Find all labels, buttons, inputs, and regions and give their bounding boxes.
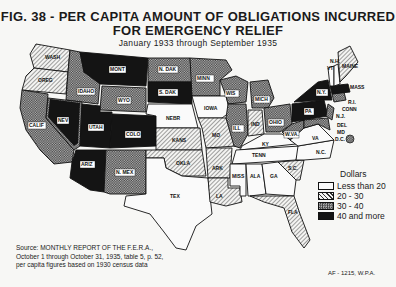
swatch-white-icon <box>318 182 334 190</box>
state-nj <box>326 104 334 120</box>
svg-text:NEV: NEV <box>58 117 69 123</box>
svg-text:MD: MD <box>337 129 345 135</box>
svg-text:VT: VT <box>327 65 333 71</box>
svg-text:MISS: MISS <box>232 173 245 179</box>
svg-text:IND: IND <box>251 121 260 127</box>
svg-text:R.I.: R.I. <box>348 99 356 105</box>
svg-text:TEX: TEX <box>170 193 180 199</box>
credit-code: AF - 1215, W.P.A. <box>328 270 375 276</box>
state-dc <box>346 135 354 143</box>
svg-text:COLO: COLO <box>126 131 141 137</box>
svg-text:GA: GA <box>270 173 278 179</box>
legend-item-less-than-20: Less than 20 <box>318 181 386 191</box>
svg-text:NEBR: NEBR <box>166 115 181 121</box>
swatch-black-icon <box>318 212 334 220</box>
svg-text:ALA: ALA <box>250 173 261 179</box>
source-note: Source: MONTHLY REPORT OF THE F.E.R.A., … <box>16 244 163 270</box>
svg-text:TENN: TENN <box>252 152 266 158</box>
state-ark <box>206 148 232 178</box>
svg-text:OREG: OREG <box>38 77 53 83</box>
svg-text:PA: PA <box>305 108 312 114</box>
svg-text:MASS: MASS <box>350 84 365 90</box>
svg-text:WIS: WIS <box>226 90 236 96</box>
svg-text:WASH: WASH <box>45 54 60 60</box>
svg-text:KY: KY <box>262 141 270 147</box>
state-ariz <box>70 150 106 192</box>
svg-text:LA: LA <box>216 193 223 199</box>
state-fla <box>250 196 310 248</box>
svg-text:N. DAK: N. DAK <box>159 66 177 72</box>
svg-text:S. DAK: S. DAK <box>159 89 176 95</box>
svg-text:W.VA.: W.VA. <box>285 131 299 137</box>
legend-item-20-30: 20 - 30 <box>318 191 386 201</box>
svg-text:S.C.: S.C. <box>288 165 298 171</box>
state-mich <box>250 80 274 108</box>
svg-text:IOWA: IOWA <box>204 105 218 111</box>
swatch-hatch-icon <box>318 192 334 200</box>
legend-item-30-40: 30 - 40 <box>318 201 386 211</box>
svg-text:N.J.: N.J. <box>336 113 346 119</box>
legend-title: Dollars <box>340 169 386 179</box>
svg-text:OKLA: OKLA <box>176 160 191 166</box>
svg-text:ARIZ: ARIZ <box>81 161 93 167</box>
svg-text:CONN: CONN <box>342 106 357 112</box>
svg-text:IDAHO: IDAHO <box>78 88 94 94</box>
legend-item-40-and-more: 40 and more <box>318 211 386 221</box>
legend: Dollars Less than 20 20 - 30 30 - 40 40 … <box>318 169 386 221</box>
svg-text:N.H.: N.H. <box>330 58 341 64</box>
svg-text:MO: MO <box>212 132 220 138</box>
svg-text:MONT: MONT <box>110 66 125 72</box>
svg-text:KANS: KANS <box>172 137 187 143</box>
svg-text:ARK: ARK <box>212 165 223 171</box>
svg-text:ILL: ILL <box>233 125 241 131</box>
svg-text:MICH: MICH <box>255 96 268 102</box>
svg-text:OHIO: OHIO <box>269 119 282 125</box>
svg-text:UTAH: UTAH <box>89 124 103 130</box>
svg-text:MAINE: MAINE <box>342 63 359 69</box>
svg-text:CALIF: CALIF <box>29 122 44 128</box>
svg-text:N. MEX: N. MEX <box>116 169 134 175</box>
svg-text:WYO: WYO <box>118 97 130 103</box>
svg-text:VA: VA <box>312 135 319 141</box>
svg-text:N.C.: N.C. <box>316 149 327 155</box>
svg-text:MINN: MINN <box>197 75 210 81</box>
svg-text:D.C.: D.C. <box>335 136 346 142</box>
svg-text:N.Y.: N.Y. <box>317 89 327 95</box>
svg-text:FLA: FLA <box>288 209 298 215</box>
swatch-crosshatch-icon <box>318 202 334 210</box>
svg-text:DEL: DEL <box>337 122 347 128</box>
